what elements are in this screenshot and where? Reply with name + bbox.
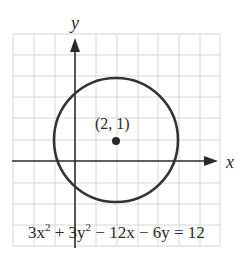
circle-graph: x y (2, 1) 3x2 + 3y2 − 12x − 6y = 12 bbox=[0, 0, 250, 258]
y-axis-label: y bbox=[69, 13, 79, 33]
center-point bbox=[112, 137, 120, 145]
x-axis-arrow-icon bbox=[204, 156, 218, 166]
y-axis-arrow-icon bbox=[70, 38, 80, 52]
x-axis-label: x bbox=[225, 152, 234, 172]
center-label: (2, 1) bbox=[95, 115, 130, 133]
equation-label: 3x2 + 3y2 − 12x − 6y = 12 bbox=[28, 221, 205, 242]
x-axis bbox=[12, 156, 218, 166]
